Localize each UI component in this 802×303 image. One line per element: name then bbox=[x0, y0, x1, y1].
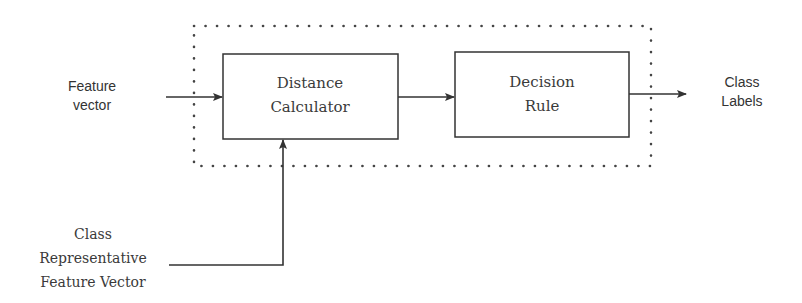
class-representative-label-line2: Representative bbox=[39, 250, 147, 266]
class-labels-label-line1: Class bbox=[724, 74, 759, 90]
decision-rule-label-line2: Rule bbox=[525, 97, 560, 115]
feature-vector-label-line1: Feature bbox=[68, 78, 116, 94]
classifier-block-diagram: Distance Calculator Decision Rule Featur… bbox=[0, 0, 802, 303]
class-representative-label-line1: Class bbox=[74, 226, 112, 242]
class-representative-label-line3: Feature Vector bbox=[40, 274, 146, 290]
distance-calculator-block: Distance Calculator bbox=[223, 54, 398, 139]
distance-calculator-label-line1: Distance bbox=[277, 74, 344, 92]
class-representative-arrow bbox=[169, 140, 283, 265]
distance-calculator-label-line2: Calculator bbox=[270, 98, 350, 116]
feature-vector-label-line2: vector bbox=[73, 97, 111, 113]
class-labels-label-line2: Labels bbox=[721, 93, 762, 109]
decision-rule-block: Decision Rule bbox=[455, 52, 629, 137]
decision-rule-label-line1: Decision bbox=[509, 73, 575, 91]
